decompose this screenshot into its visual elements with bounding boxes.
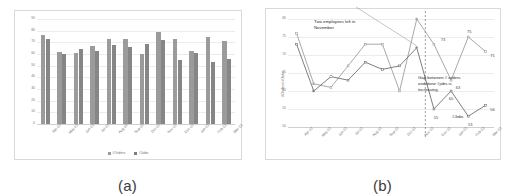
bar-orders	[74, 53, 78, 124]
panel-b-x-tick: Aug-22	[373, 127, 384, 138]
data-point	[399, 90, 401, 92]
bar-group	[54, 19, 71, 124]
panel-a-y-tick: 0	[33, 122, 35, 125]
panel-b-y-axis-title: #Orders/#Jobs	[280, 71, 285, 97]
panel-b-line-chart: #Orders/#Jobs 50556065707580Apr-22May-22…	[255, 0, 510, 196]
panel-a-y-tick: 20	[31, 99, 35, 102]
legend-swatch	[108, 152, 111, 155]
data-point	[313, 83, 315, 85]
panel-b-x-tick: Jul-22	[355, 127, 364, 136]
data-point	[485, 51, 487, 53]
annotation-employees-left: Two employees left in November.	[314, 19, 404, 31]
panel-b-x-tick: Feb-23	[476, 127, 487, 138]
bar-group	[202, 19, 219, 124]
panel-b-x-tick: Oct-22	[407, 127, 417, 137]
bar-orders	[206, 37, 210, 125]
bar-jobs	[178, 60, 182, 124]
legend-label: #Orders	[112, 151, 125, 155]
bar-orders	[222, 41, 226, 124]
data-point	[485, 105, 487, 107]
figure-container: 0102030405060708090Apr-22May-22Jun-22Jul…	[0, 0, 510, 196]
panel-a-x-tick: Oct-22	[151, 124, 161, 134]
panel-a-x-tick: Sep-22	[135, 124, 146, 135]
panel-a-plot-area: 0102030405060708090Apr-22May-22Jun-22Jul…	[37, 19, 235, 124]
bar-orders	[90, 46, 94, 124]
panel-a-y-tick: 80	[31, 29, 35, 32]
panel-b-x-tick: Sep-22	[390, 127, 401, 138]
panel-b-y-tick: 80	[282, 17, 286, 20]
data-point	[313, 90, 315, 92]
data-point	[416, 47, 418, 49]
bar-group	[103, 19, 120, 124]
legend-item: #Jobs	[134, 151, 148, 155]
data-point	[467, 115, 469, 117]
data-point	[433, 43, 435, 45]
annotation-gap-increasing: Gap between # orders and done #jobs is i…	[418, 75, 498, 92]
legend-label: #Jobs	[139, 151, 149, 155]
panel-b-x-tick: May-22	[321, 127, 332, 138]
panel-a-y-tick: 30	[31, 87, 35, 90]
panel-a-x-tick: Feb-23	[217, 124, 228, 135]
bar-jobs	[128, 47, 132, 124]
data-label: 71	[490, 53, 494, 58]
panel-b-x-tick: Jan-23	[458, 127, 468, 137]
bar-orders	[140, 54, 144, 124]
panel-b-series-canvas	[288, 19, 494, 127]
panel-b-y-tick: 65	[282, 71, 286, 74]
bar-jobs	[79, 49, 83, 124]
data-point	[296, 43, 298, 45]
panel-a-x-tick: Nov-22	[168, 124, 179, 135]
panel-a-bar-chart: 0102030405060708090Apr-22May-22Jun-22Jul…	[0, 0, 255, 196]
bar-jobs	[112, 45, 116, 124]
panel-b-caption: (b)	[255, 177, 510, 194]
panel-b-y-tick: 55	[282, 107, 286, 110]
bar-group	[169, 19, 186, 124]
panel-b-x-tick: Apr-22	[304, 127, 314, 137]
panel-b-plot-area: 50556065707580Apr-22May-22Jun-22Jul-22Au…	[288, 19, 494, 127]
bar-group	[153, 19, 170, 124]
bar-orders	[173, 39, 177, 124]
panel-a-x-tick: May-22	[69, 124, 80, 135]
bar-orders	[123, 39, 127, 124]
panel-a-x-tick: Jan-23	[201, 124, 211, 134]
panel-a-y-tick: 90	[31, 17, 35, 20]
panel-a-y-tick: 70	[31, 41, 35, 44]
data-point	[433, 108, 435, 110]
data-label: 60	[449, 96, 453, 101]
data-point	[364, 43, 366, 45]
data-point	[364, 61, 366, 63]
panel-a-plot-frame: 0102030405060708090Apr-22May-22Jun-22Jul…	[14, 10, 242, 160]
panel-a-legend: #Orders#Jobs	[15, 151, 241, 155]
bar-group	[70, 19, 87, 124]
bar-group	[37, 19, 54, 124]
data-label: 55	[434, 115, 438, 120]
data-point	[382, 69, 384, 71]
bar-jobs	[161, 40, 165, 124]
data-point	[296, 33, 298, 35]
panel-b-x-tick: Dec-22	[441, 127, 452, 138]
legend-item: #Orders	[108, 151, 126, 155]
annotation-jobs-series-label: #Jobs	[452, 114, 463, 119]
data-label: 53	[468, 122, 472, 127]
bar-group	[219, 19, 236, 124]
data-point	[347, 79, 349, 81]
bar-jobs	[95, 51, 99, 125]
panel-a-y-tick: 10	[31, 111, 35, 114]
panel-b-y-tick: 70	[282, 53, 286, 56]
data-point	[467, 36, 469, 38]
panel-a-y-tick: 40	[31, 76, 35, 79]
data-point	[416, 18, 418, 20]
panel-b-y-tick: 75	[282, 35, 286, 38]
panel-a-x-tick: Jul-22	[101, 124, 110, 133]
bar-jobs	[227, 59, 231, 124]
bar-group	[186, 19, 203, 124]
data-point	[399, 65, 401, 67]
data-point	[330, 87, 332, 89]
panel-b-y-tick: 50	[282, 125, 286, 128]
panel-b-x-tick: Mar-23	[493, 127, 504, 138]
legend-swatch	[134, 152, 137, 155]
bar-orders	[41, 35, 45, 124]
panel-b-x-tick: Jun-22	[338, 127, 348, 137]
bar-orders	[107, 39, 111, 124]
bar-jobs	[211, 62, 215, 124]
